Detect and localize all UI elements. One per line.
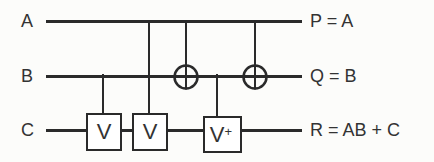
circuit-diagram: A B C P = A Q = B R = AB + C V V V+ [0, 0, 434, 162]
output-label-p: P = A [310, 12, 353, 31]
input-label-c: C [21, 121, 34, 140]
output-label-q: Q = B [310, 67, 357, 86]
v-dagger-superscript: + [225, 124, 233, 139]
output-label-r: R = AB + C [310, 121, 400, 140]
v-gate-1-label: V [97, 121, 112, 143]
v-gate-2-label: V [143, 121, 158, 143]
v-dagger-base: V [210, 122, 225, 147]
input-label-b: B [21, 67, 33, 86]
v-dagger-gate-label: V+ [210, 124, 232, 146]
input-label-a: A [21, 12, 33, 31]
